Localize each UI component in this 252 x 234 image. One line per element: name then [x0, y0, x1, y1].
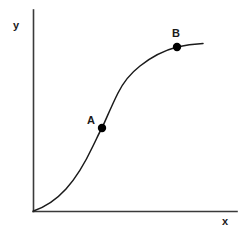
data-point-b-marker [173, 43, 181, 51]
plot-canvas [0, 0, 252, 234]
y-axis-label: y [13, 20, 19, 31]
sigmoid-curve [34, 44, 204, 212]
sigmoid-curve-figure: y x A B [0, 0, 252, 234]
data-point-a-label: A [87, 115, 95, 126]
data-point-a-marker [98, 124, 106, 132]
data-point-b-label: B [172, 28, 180, 39]
x-axis-label: x [222, 216, 228, 227]
